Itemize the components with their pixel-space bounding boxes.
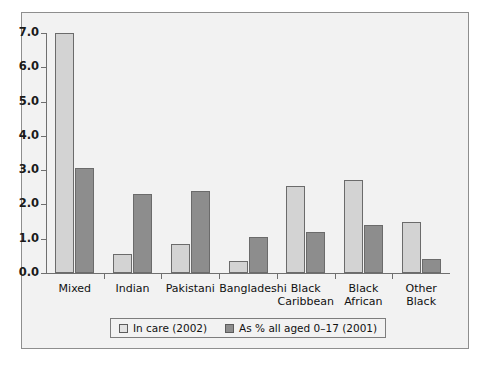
bar-group	[55, 33, 94, 273]
bar	[133, 194, 152, 273]
y-tick-mark	[41, 67, 46, 68]
bar-group	[402, 33, 441, 273]
x-tick-mark	[219, 274, 220, 279]
bar	[364, 225, 383, 273]
bar	[402, 222, 421, 273]
y-tick-label: 4.0	[19, 128, 39, 142]
x-axis-category-label: Other Black	[392, 282, 450, 308]
plot-area: 0.01.02.03.04.05.06.07.0 MixedIndianPaki…	[46, 33, 450, 273]
bar	[171, 244, 190, 273]
bar	[55, 33, 74, 273]
y-tick-mark	[41, 239, 46, 240]
bar	[75, 168, 94, 273]
bar	[229, 261, 248, 273]
y-tick-mark	[41, 204, 46, 205]
x-tick-mark	[335, 274, 336, 279]
x-axis-category-label: Pakistani	[161, 282, 219, 295]
x-tick-mark	[161, 274, 162, 279]
bar-group	[344, 33, 383, 273]
y-tick-mark	[41, 33, 46, 34]
bar-group	[286, 33, 325, 273]
bar	[191, 191, 210, 273]
bar	[286, 186, 305, 273]
bar	[422, 259, 441, 273]
x-tick-mark	[277, 274, 278, 279]
x-axis-line	[46, 273, 450, 274]
chart-frame: 0.01.02.03.04.05.06.07.0 MixedIndianPaki…	[21, 12, 469, 349]
chart-legend: In care (2002)As % all aged 0–17 (2001)	[110, 318, 386, 338]
legend-item: In care (2002)	[119, 322, 207, 334]
y-tick-label: 0.0	[19, 265, 39, 279]
y-tick-mark	[41, 102, 46, 103]
bar	[344, 180, 363, 273]
legend-swatch-icon	[225, 324, 234, 333]
x-axis-category-label: Black Caribbean	[277, 282, 335, 308]
bar	[306, 232, 325, 273]
bar	[113, 254, 132, 273]
y-tick-mark	[41, 136, 46, 137]
y-tick-label: 7.0	[19, 25, 39, 39]
legend-item: As % all aged 0–17 (2001)	[225, 322, 377, 334]
y-tick-label: 2.0	[19, 196, 39, 210]
y-tick-label: 1.0	[19, 231, 39, 245]
bar-group	[229, 33, 268, 273]
y-axis-line	[46, 33, 47, 274]
bar-group	[171, 33, 210, 273]
y-tick-label: 5.0	[19, 94, 39, 108]
y-tick-label: 6.0	[19, 59, 39, 73]
legend-swatch-icon	[119, 324, 128, 333]
x-axis-category-label: Black African	[335, 282, 393, 308]
x-tick-mark	[104, 274, 105, 279]
x-axis-category-label: Indian	[104, 282, 162, 295]
x-axis-category-label: Bangladeshi	[219, 282, 277, 295]
x-tick-mark	[392, 274, 393, 279]
legend-label: As % all aged 0–17 (2001)	[239, 322, 377, 334]
bar-group	[113, 33, 152, 273]
legend-label: In care (2002)	[133, 322, 207, 334]
y-tick-mark	[41, 273, 46, 274]
y-tick-mark	[41, 170, 46, 171]
bar	[249, 237, 268, 273]
y-tick-label: 3.0	[19, 162, 39, 176]
x-axis-category-label: Mixed	[46, 282, 104, 295]
